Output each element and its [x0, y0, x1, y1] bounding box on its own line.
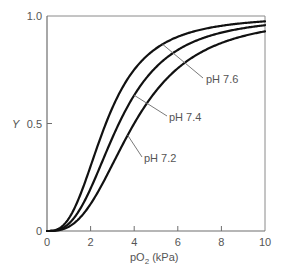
x-tick-label: 6 — [175, 236, 181, 248]
curve-label-ph-7-2: pH 7.2 — [144, 152, 176, 164]
curve-ph-7-4 — [47, 25, 265, 231]
oxygen-binding-chart: 0246810 00.51.0 pH 7.6pH 7.4pH 7.2 Y pO2… — [0, 0, 286, 274]
curve-ph-7-6 — [47, 21, 265, 231]
curve-labels: pH 7.6pH 7.4pH 7.2 — [128, 44, 239, 164]
x-axis-title-unit: (kPa) — [149, 251, 178, 263]
x-axis-title-main: pO — [130, 251, 145, 263]
y-tick-label: 1.0 — [27, 10, 42, 22]
y-tick-label: 0 — [36, 225, 42, 237]
x-tick-label: 8 — [218, 236, 224, 248]
x-tick-label: 0 — [44, 236, 50, 248]
x-axis-title: pO2 (kPa) — [130, 251, 178, 266]
x-tick-label: 2 — [88, 236, 94, 248]
curve-label-ph-7-4: pH 7.4 — [169, 111, 201, 123]
leader-line-ph-7-6 — [163, 44, 203, 78]
curve-label-ph-7-6: pH 7.6 — [206, 73, 238, 85]
y-tick-label: 0.5 — [27, 118, 42, 130]
x-tick-label: 4 — [131, 236, 137, 248]
curves — [47, 21, 265, 231]
curve-ph-7-2 — [47, 31, 265, 231]
y-axis-title: Y — [12, 118, 20, 130]
y-axis-ticks: 00.51.0 — [27, 10, 52, 237]
x-tick-label: 10 — [259, 236, 271, 248]
leader-line-ph-7-2 — [128, 135, 142, 157]
x-axis-ticks: 0246810 — [44, 226, 271, 248]
